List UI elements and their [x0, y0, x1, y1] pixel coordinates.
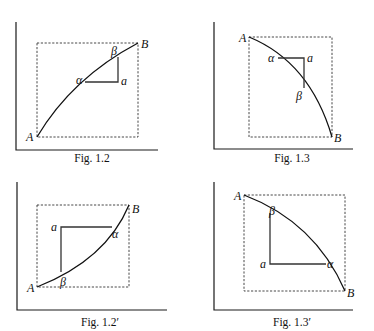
- triangle: [85, 57, 118, 82]
- label-a: a: [307, 51, 313, 65]
- label-a-point: A: [26, 281, 35, 295]
- triangle: [278, 58, 304, 88]
- label-a-point: A: [233, 189, 242, 203]
- label-alpha: α: [76, 73, 83, 87]
- label-a-point: A: [238, 31, 247, 45]
- dashed-box: [249, 37, 332, 137]
- caption: Fig. 1.2: [74, 152, 110, 165]
- triangle: [61, 227, 112, 272]
- dashed-box: [37, 43, 138, 137]
- curve-a-to-b: [244, 195, 345, 291]
- diagram-canvas: A B α β a Fig. 1.2 A B α β a Fig. 1.3 A …: [0, 0, 374, 331]
- label-a-point: A: [25, 130, 34, 144]
- label-b-point: B: [347, 286, 355, 300]
- curve-a-to-b: [249, 37, 332, 137]
- caption: Fig. 1.3: [274, 152, 310, 165]
- axes: [17, 182, 167, 310]
- label-alpha: α: [327, 257, 334, 271]
- label-b-point: B: [132, 202, 140, 216]
- figure-1-3-prime: A B α β a Fig. 1.3′: [214, 182, 355, 329]
- label-b-point: B: [141, 37, 149, 51]
- curve-a-to-b: [37, 43, 138, 137]
- label-a: a: [121, 74, 127, 88]
- figure-1-3: A B α β a Fig. 1.3: [214, 22, 353, 165]
- figure-1-2-prime: A B α β a Fig. 1.2′: [17, 182, 167, 329]
- triangle: [270, 213, 326, 264]
- label-a: a: [51, 220, 57, 234]
- label-alpha: α: [112, 227, 119, 241]
- figure-1-2: A B α β a Fig. 1.2: [16, 22, 158, 165]
- curve-a-to-b: [37, 205, 129, 287]
- dashed-box: [244, 195, 345, 291]
- label-beta: β: [295, 89, 302, 103]
- dashed-box: [37, 205, 129, 287]
- label-beta: β: [268, 204, 275, 218]
- label-beta: β: [110, 44, 117, 58]
- caption: Fig. 1.2′: [81, 316, 119, 329]
- caption: Fig. 1.3′: [273, 316, 311, 329]
- label-beta: β: [59, 275, 66, 289]
- label-alpha: α: [268, 51, 275, 65]
- label-a: a: [260, 257, 266, 271]
- label-b-point: B: [334, 131, 342, 145]
